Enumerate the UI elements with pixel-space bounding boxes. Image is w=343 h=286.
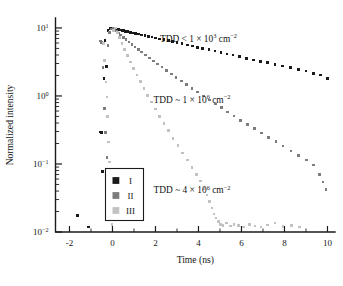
data-point bbox=[305, 159, 308, 162]
data-point bbox=[102, 66, 105, 69]
axis-lines bbox=[56, 18, 336, 232]
data-point bbox=[158, 115, 161, 118]
legend-marker-II bbox=[113, 192, 120, 199]
data-point bbox=[211, 207, 214, 210]
data-point bbox=[137, 48, 140, 51]
data-point bbox=[105, 65, 108, 68]
data-point bbox=[185, 83, 188, 86]
data-point bbox=[274, 63, 277, 66]
data-point bbox=[134, 46, 137, 49]
data-point bbox=[132, 32, 135, 35]
legend-label-II: II bbox=[128, 191, 134, 201]
data-point bbox=[106, 115, 109, 118]
legend-label-I: I bbox=[129, 176, 132, 186]
legend-marker-III bbox=[113, 207, 120, 214]
data-point bbox=[108, 31, 111, 34]
x-tick-label: 6 bbox=[239, 238, 244, 248]
data-point bbox=[132, 67, 135, 70]
y-tick-label: 101 bbox=[36, 22, 48, 34]
data-point bbox=[220, 106, 223, 109]
data-point bbox=[103, 59, 106, 62]
y-axis-title: Normalized intensity bbox=[4, 84, 15, 165]
data-point bbox=[290, 224, 293, 227]
data-point bbox=[253, 127, 256, 130]
data-point bbox=[259, 60, 262, 63]
data-point bbox=[123, 48, 126, 51]
data-point bbox=[260, 226, 263, 229]
data-point bbox=[129, 31, 132, 34]
data-point bbox=[108, 161, 111, 164]
data-point bbox=[226, 53, 229, 56]
data-point bbox=[191, 45, 194, 48]
data-point bbox=[214, 50, 217, 53]
data-point bbox=[143, 87, 146, 90]
data-point bbox=[177, 144, 180, 147]
data-point bbox=[233, 115, 236, 118]
data-point bbox=[103, 107, 106, 110]
data-point bbox=[226, 111, 229, 114]
data-point bbox=[252, 59, 255, 62]
data-point bbox=[116, 31, 119, 34]
data-point bbox=[254, 225, 257, 228]
data-point bbox=[121, 42, 124, 45]
data-point bbox=[297, 68, 300, 71]
x-tick-label: 8 bbox=[282, 238, 287, 248]
series-II bbox=[99, 27, 327, 191]
data-point bbox=[305, 70, 308, 73]
data-point bbox=[107, 141, 110, 144]
x-axis-title: Time (ns) bbox=[177, 254, 214, 266]
data-point bbox=[248, 223, 251, 226]
data-point bbox=[151, 36, 154, 39]
chart-canvas: -2024681010−210−1100101 TDD < 1 × 103 cm… bbox=[0, 0, 343, 286]
data-point bbox=[140, 34, 143, 37]
x-tick-label: 0 bbox=[110, 238, 115, 248]
y-tick-label: 10−2 bbox=[33, 226, 49, 238]
data-point bbox=[312, 72, 315, 75]
data-point bbox=[325, 188, 328, 191]
data-point bbox=[282, 225, 285, 228]
data-point bbox=[196, 46, 199, 49]
data-point bbox=[222, 224, 225, 227]
data-point bbox=[297, 154, 300, 157]
data-point bbox=[201, 47, 204, 50]
data-point bbox=[199, 180, 202, 183]
data-point bbox=[232, 54, 235, 57]
axes-group: -2024681010−210−1100101 bbox=[33, 18, 335, 248]
annotation-series-3: TDD ~ 4 × 106 cm−2 bbox=[154, 184, 231, 196]
x-tick-label: 2 bbox=[153, 238, 158, 248]
data-point bbox=[144, 54, 147, 57]
data-point bbox=[219, 223, 222, 226]
data-point bbox=[152, 60, 155, 63]
data-point bbox=[267, 136, 270, 139]
data-point bbox=[156, 63, 159, 66]
data-point bbox=[87, 226, 90, 229]
data-point bbox=[104, 39, 107, 42]
data-point bbox=[131, 43, 134, 46]
data-point bbox=[312, 164, 315, 167]
data-point bbox=[163, 122, 166, 125]
data-point bbox=[170, 73, 173, 76]
data-point bbox=[191, 87, 194, 90]
data-point bbox=[148, 57, 151, 60]
data-point bbox=[172, 137, 175, 140]
data-point bbox=[122, 36, 125, 39]
data-point bbox=[106, 156, 109, 159]
data-point bbox=[128, 41, 131, 44]
data-point bbox=[146, 94, 149, 97]
data-point bbox=[290, 150, 293, 153]
x-tick-label: 10 bbox=[323, 238, 333, 248]
data-point bbox=[220, 51, 223, 54]
data-point bbox=[275, 140, 278, 143]
data-point bbox=[266, 224, 269, 227]
data-point bbox=[101, 170, 104, 173]
y-tick-label: 100 bbox=[36, 90, 48, 102]
data-point bbox=[208, 200, 211, 203]
data-point bbox=[217, 220, 220, 223]
data-point bbox=[118, 36, 121, 39]
data-point bbox=[140, 51, 143, 54]
y-tick-label: 10−1 bbox=[33, 158, 49, 170]
data-point bbox=[180, 80, 183, 83]
data-point bbox=[126, 54, 129, 57]
data-point bbox=[104, 131, 107, 134]
data-point bbox=[215, 217, 218, 220]
